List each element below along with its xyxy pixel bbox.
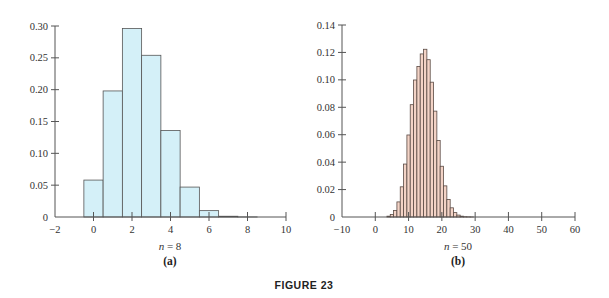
histogram-b: 00.020.040.060.080.100.120.14−1001020304… bbox=[317, 20, 581, 236]
x-tick-label: −2 bbox=[49, 224, 60, 235]
histogram-bar bbox=[414, 80, 417, 217]
panel-label-b: (b) bbox=[451, 255, 465, 268]
histogram-bar bbox=[447, 199, 450, 217]
histogram-bar bbox=[430, 82, 433, 217]
x-tick-label: 8 bbox=[245, 224, 250, 235]
x-tick-label: 50 bbox=[536, 224, 547, 235]
xlabel-b: n = 50 bbox=[444, 240, 473, 252]
x-tick-label: 2 bbox=[129, 224, 134, 235]
xlabel-a-rest: = 8 bbox=[164, 240, 182, 252]
y-tick-label: 0.30 bbox=[30, 21, 48, 32]
x-tick-label: 30 bbox=[470, 224, 481, 235]
x-tick-label: 20 bbox=[437, 224, 448, 235]
histogram-bar bbox=[420, 54, 423, 217]
y-tick-label: 0.14 bbox=[317, 20, 336, 31]
histogram-bar bbox=[454, 213, 457, 217]
y-tick-label: 0 bbox=[330, 212, 335, 223]
histogram-bar bbox=[142, 55, 161, 217]
x-tick-label: 10 bbox=[281, 224, 292, 235]
histogram-bar bbox=[444, 186, 447, 217]
x-tick-label: 0 bbox=[91, 224, 96, 235]
x-tick-label: 0 bbox=[373, 224, 378, 235]
y-tick-label: 0.05 bbox=[30, 180, 48, 191]
y-tick-label: 0.12 bbox=[317, 47, 335, 58]
histogram-a: 00.050.100.150.200.250.30−20246810 bbox=[30, 21, 292, 236]
histogram-bar bbox=[407, 135, 410, 217]
x-tick-label: 4 bbox=[168, 224, 174, 235]
histogram-bar bbox=[122, 29, 141, 217]
figure-label: FIGURE 23 bbox=[275, 279, 334, 291]
y-tick-label: 0.06 bbox=[317, 129, 335, 140]
y-tick-label: 0.10 bbox=[317, 74, 335, 85]
xlabel-a: n = 8 bbox=[159, 240, 182, 252]
histogram-bar bbox=[417, 66, 420, 217]
y-tick-label: 0 bbox=[43, 212, 48, 223]
y-tick-label: 0.04 bbox=[317, 157, 336, 168]
histogram-bar bbox=[400, 187, 403, 217]
histogram-bar bbox=[427, 60, 430, 217]
histogram-bar bbox=[437, 140, 440, 217]
y-tick-label: 0.20 bbox=[30, 84, 48, 95]
y-tick-label: 0.25 bbox=[30, 52, 48, 63]
xlabel-b-rest: = 50 bbox=[449, 240, 472, 252]
histogram-bar bbox=[180, 187, 199, 217]
histogram-bar bbox=[84, 180, 103, 217]
y-tick-label: 0.10 bbox=[30, 148, 48, 159]
x-tick-label: 10 bbox=[403, 224, 414, 235]
histogram-bar bbox=[424, 49, 427, 217]
histogram-bar bbox=[410, 105, 413, 217]
x-tick-label: 40 bbox=[503, 224, 514, 235]
y-tick-label: 0.08 bbox=[317, 102, 335, 113]
histogram-bar bbox=[394, 210, 397, 217]
x-tick-label: −10 bbox=[334, 224, 350, 235]
histogram-bar bbox=[440, 166, 443, 217]
y-tick-label: 0.02 bbox=[317, 184, 335, 195]
panel-label-a: (a) bbox=[163, 255, 177, 268]
histogram-bar bbox=[397, 202, 400, 217]
histogram-bar bbox=[450, 208, 453, 217]
y-tick-label: 0.15 bbox=[30, 116, 48, 127]
x-tick-label: 60 bbox=[570, 224, 581, 235]
x-tick-label: 6 bbox=[206, 224, 211, 235]
histogram-bar bbox=[404, 164, 407, 217]
histogram-bar bbox=[103, 91, 122, 217]
histogram-bar bbox=[161, 130, 180, 217]
figure-canvas: 00.050.100.150.200.250.30−20246810 00.02… bbox=[0, 0, 609, 298]
histogram-bar bbox=[434, 111, 437, 217]
